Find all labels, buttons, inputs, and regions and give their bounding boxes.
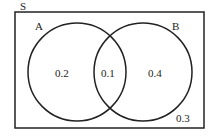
intersection-value: 0.1 — [101, 67, 115, 79]
b-only-value: 0.4 — [148, 67, 162, 79]
a-only-value: 0.2 — [55, 67, 69, 79]
set-a-label: A — [35, 20, 43, 32]
venn-diagram: S A B 0.2 0.1 0.4 0.3 — [0, 0, 215, 139]
set-b-label: B — [172, 20, 179, 32]
universe-label: S — [20, 0, 26, 12]
outside-value: 0.3 — [176, 112, 190, 124]
